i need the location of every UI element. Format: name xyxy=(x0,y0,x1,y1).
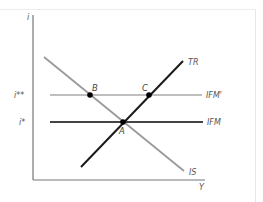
tr-label: TR xyxy=(188,58,198,67)
y-axis-label: i xyxy=(27,13,30,22)
point-c xyxy=(146,92,152,98)
point-a-label: A xyxy=(118,126,125,136)
ifm-label: IFM xyxy=(207,118,221,127)
x-axis-label: Y xyxy=(199,183,205,192)
y-tick-i-star: i* xyxy=(19,118,25,127)
y-tick-i-double-star: i** xyxy=(14,91,24,100)
point-a xyxy=(120,119,126,125)
is-curve xyxy=(44,57,184,171)
point-b xyxy=(87,92,93,98)
tr-curve xyxy=(81,61,183,167)
point-c-label: C xyxy=(142,83,148,93)
is-label: IS xyxy=(189,168,196,177)
is-tr-ifm-diagram: i Y i** i* IFM' IFM IS TR A B C xyxy=(0,0,263,202)
ifm-prime-label: IFM' xyxy=(206,91,222,100)
point-b-label: B xyxy=(92,83,98,93)
